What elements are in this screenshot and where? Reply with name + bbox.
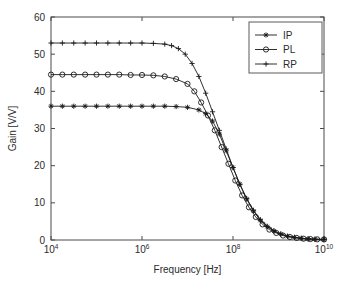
y-tick-label: 10 — [34, 197, 46, 208]
series-line — [51, 75, 324, 240]
legend-label: RP — [283, 59, 297, 70]
legend-group[interactable]: IPPLRP — [249, 22, 322, 73]
x-axis-title: Frequency [Hz] — [154, 264, 222, 275]
y-tick-label: 60 — [34, 12, 46, 23]
x-tick-label: 108 — [226, 243, 241, 255]
y-axis-title: Gain [V/V] — [7, 105, 18, 151]
x-tick-label: 1010 — [315, 243, 334, 255]
figure-canvas: 01020304050601041061081010 IPPLRP Freque… — [0, 0, 346, 293]
chart-plot: 01020304050601041061081010 IPPLRP Freque… — [0, 0, 346, 293]
x-tick-label: 106 — [135, 243, 150, 255]
y-tick-label: 30 — [34, 123, 46, 134]
series-ip — [48, 104, 326, 242]
legend-label: IP — [283, 30, 293, 41]
legend-label: PL — [283, 44, 296, 55]
series-pl — [48, 72, 326, 242]
x-tick-label: 104 — [44, 243, 59, 255]
series-line — [51, 106, 324, 239]
y-tick-label: 50 — [34, 49, 46, 60]
y-tick-label: 20 — [34, 160, 46, 171]
y-tick-label: 40 — [34, 86, 46, 97]
